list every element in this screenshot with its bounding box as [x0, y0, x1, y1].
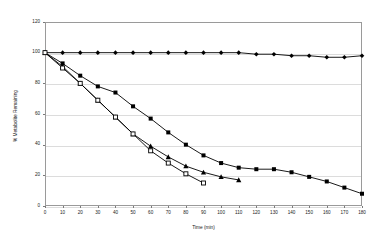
- data-point-diamond-filled: [289, 53, 294, 58]
- data-point-square-open: [202, 181, 206, 185]
- data-point-diamond-filled: [324, 55, 329, 60]
- data-point-diamond-filled: [78, 50, 83, 55]
- data-point-square-open: [96, 98, 100, 102]
- data-point-square-filled: [149, 117, 153, 121]
- data-point-square-filled: [360, 192, 364, 196]
- data-point-diamond-filled: [148, 50, 153, 55]
- data-point-triangle-filled: [183, 164, 188, 169]
- data-point-square-open: [149, 149, 153, 153]
- data-point-diamond-filled: [60, 50, 65, 55]
- data-point-diamond-filled: [166, 50, 171, 55]
- data-point-diamond-filled: [360, 53, 365, 58]
- data-point-square-open: [43, 51, 47, 55]
- data-point-square-filled: [166, 130, 170, 134]
- data-point-triangle-filled: [166, 154, 171, 159]
- data-point-square-filled: [113, 91, 117, 95]
- data-point-diamond-filled: [96, 50, 101, 55]
- data-point-square-open: [113, 115, 117, 119]
- data-point-square-filled: [131, 104, 135, 108]
- data-point-square-filled: [96, 84, 100, 88]
- data-point-diamond-filled: [272, 52, 277, 57]
- data-point-diamond-filled: [342, 55, 347, 60]
- data-point-square-filled: [254, 167, 258, 171]
- data-point-square-filled: [78, 74, 82, 78]
- data-point-diamond-filled: [219, 50, 224, 55]
- data-point-square-filled: [325, 179, 329, 183]
- data-point-square-filled: [307, 175, 311, 179]
- data-point-diamond-filled: [184, 50, 189, 55]
- data-point-diamond-filled: [113, 50, 118, 55]
- data-point-triangle-filled: [148, 144, 153, 149]
- data-point-square-filled: [237, 166, 241, 170]
- data-point-square-open: [184, 172, 188, 176]
- data-point-square-filled: [272, 167, 276, 171]
- data-point-square-filled: [202, 153, 206, 157]
- data-point-diamond-filled: [201, 50, 206, 55]
- series-filled-diamond-series: [43, 50, 365, 59]
- data-point-square-open: [78, 81, 82, 85]
- data-point-square-open: [131, 132, 135, 136]
- data-point-diamond-filled: [131, 50, 136, 55]
- chart-container: % Metabolite Remaining Time (min) 020406…: [0, 0, 376, 243]
- data-point-square-filled: [184, 143, 188, 147]
- series-layer: [0, 0, 376, 243]
- data-point-square-open: [166, 161, 170, 165]
- data-point-square-filled: [290, 170, 294, 174]
- data-point-square-filled: [219, 161, 223, 165]
- data-point-square-open: [61, 66, 65, 70]
- data-point-square-filled: [342, 186, 346, 190]
- data-point-diamond-filled: [254, 52, 259, 57]
- data-point-diamond-filled: [236, 50, 241, 55]
- data-point-diamond-filled: [307, 53, 312, 58]
